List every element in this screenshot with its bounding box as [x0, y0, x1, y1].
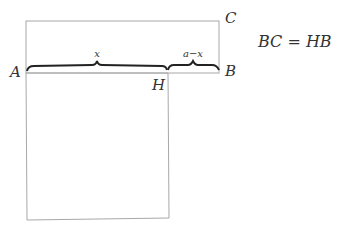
label-a-minus-x: a−x	[183, 48, 203, 59]
brace-x	[27, 61, 167, 71]
label-x: x	[94, 48, 100, 59]
point-label-b: B	[224, 62, 236, 80]
equation: BC = HB	[257, 32, 332, 51]
point-label-a: A	[8, 63, 21, 81]
point-label-h: H	[151, 76, 166, 94]
square-ah	[26, 73, 169, 220]
geometry-diagram: x a−x A B C H BC = HB	[0, 0, 339, 232]
point-label-c: C	[225, 9, 237, 27]
brace-a-minus-x	[168, 61, 219, 70]
